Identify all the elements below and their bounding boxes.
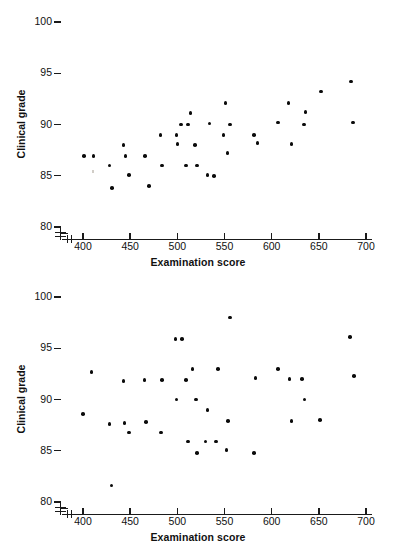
data-point	[222, 133, 226, 137]
y-tick-label-85: 85	[26, 170, 52, 180]
data-point	[123, 421, 127, 425]
data-point	[290, 142, 294, 146]
print-artifact	[92, 170, 94, 173]
y-tick-label-90: 90	[26, 394, 52, 404]
data-point	[212, 174, 216, 178]
data-point	[318, 418, 322, 422]
data-point	[276, 367, 280, 371]
data-point	[175, 133, 179, 137]
x-tick-600	[271, 233, 272, 239]
data-point	[147, 184, 151, 188]
y-tick-label-80: 80	[26, 496, 52, 506]
data-point	[349, 80, 353, 84]
x-axis-break-slash2-faculty	[71, 235, 72, 243]
data-point	[193, 143, 197, 147]
data-point	[189, 111, 193, 115]
y-tick-label-90: 90	[26, 119, 52, 129]
data-point	[216, 367, 220, 371]
y-tick-100	[54, 21, 61, 22]
data-point	[352, 374, 356, 378]
data-point	[81, 412, 85, 416]
data-point	[180, 337, 184, 341]
scatter-figure: Faculty Raters Clinical grade Examinatio…	[0, 0, 396, 550]
data-point	[159, 133, 163, 137]
x-tick-700	[365, 508, 366, 514]
x-tick-label-700: 700	[346, 516, 386, 527]
x-tick-label-400: 400	[63, 241, 103, 252]
data-point	[184, 164, 188, 168]
data-point	[254, 376, 258, 380]
x-tick-label-550: 550	[205, 516, 245, 527]
data-point	[300, 377, 304, 381]
x-tick-550	[224, 508, 225, 514]
data-point	[228, 316, 232, 320]
data-point	[256, 141, 260, 145]
plot-area-resident	[60, 297, 372, 502]
y-tick-label-wrap-95: 95	[22, 67, 52, 79]
panel-faculty-raters: Faculty Raters Clinical grade Examinatio…	[0, 0, 396, 275]
data-point	[206, 173, 210, 177]
x-tick-450	[129, 508, 130, 514]
x-tick-label-450: 450	[110, 516, 150, 527]
y-tick-90	[54, 124, 61, 125]
data-point	[186, 123, 190, 127]
x-tick-550	[224, 233, 225, 239]
data-point	[108, 164, 112, 168]
y-tick-label-95: 95	[26, 342, 52, 352]
y-tick-label-wrap-85: 85	[22, 445, 52, 457]
x-tick-700	[365, 233, 366, 239]
x-tick-400	[82, 508, 83, 514]
data-point	[175, 398, 179, 402]
x-tick-label-600: 600	[252, 241, 292, 252]
y-tick-label-wrap-100: 100	[22, 291, 52, 303]
data-point	[290, 419, 294, 423]
data-point	[110, 484, 114, 488]
data-point	[226, 419, 230, 423]
y-tick-90	[54, 399, 61, 400]
data-point	[228, 123, 232, 127]
x-axis-break-corner-vert-faculty	[60, 233, 61, 240]
y-tick-label-100: 100	[26, 291, 52, 301]
data-point	[159, 431, 163, 435]
x-axis-title-faculty: Examination score	[0, 256, 396, 268]
data-point	[195, 164, 199, 168]
data-point	[304, 110, 308, 114]
data-point	[208, 122, 212, 126]
y-tick-label-wrap-100: 100	[22, 16, 52, 28]
y-tick-label-80: 80	[26, 221, 52, 231]
y-tick-95	[54, 348, 61, 349]
x-tick-label-700: 700	[346, 241, 386, 252]
y-tick-label-wrap-90: 90	[22, 119, 52, 131]
x-tick-650	[318, 508, 319, 514]
x-tick-label-550: 550	[205, 241, 245, 252]
data-point	[191, 367, 195, 371]
y-tick-label-95: 95	[26, 67, 52, 77]
y-tick-95	[54, 73, 61, 74]
data-point	[204, 440, 208, 444]
data-point	[226, 151, 230, 155]
x-axis-break-slash1-resident	[67, 510, 68, 518]
data-point	[288, 377, 292, 381]
x-tick-650	[318, 233, 319, 239]
data-point	[348, 335, 352, 339]
data-point	[122, 143, 126, 147]
data-point	[124, 154, 128, 158]
x-axis-break-slash2-resident	[71, 510, 72, 518]
y-tick-label-wrap-85: 85	[22, 170, 52, 182]
data-point	[179, 123, 183, 127]
y-tick-label-wrap-80: 80	[22, 496, 52, 508]
data-point	[127, 173, 131, 177]
data-point	[252, 451, 256, 455]
data-point	[214, 440, 218, 444]
data-point	[302, 123, 306, 127]
x-tick-400	[82, 233, 83, 239]
data-point	[143, 378, 147, 382]
y-tick-label-wrap-90: 90	[22, 394, 52, 406]
data-point	[319, 90, 323, 94]
data-point	[90, 370, 94, 374]
x-tick-label-500: 500	[157, 516, 197, 527]
data-point	[144, 420, 148, 424]
x-axis-break-slash1-faculty	[67, 235, 68, 243]
data-point	[225, 448, 229, 452]
x-axis-break-corner-vert-resident	[60, 508, 61, 515]
